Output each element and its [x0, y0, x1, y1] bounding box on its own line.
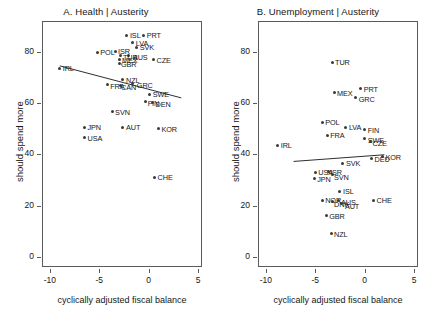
panel-a-x-tickmark — [99, 269, 100, 273]
panel-b-y-axis-label: should spend more — [230, 101, 241, 182]
data-point-label: AUT — [126, 123, 140, 132]
data-point — [96, 51, 99, 54]
panel-health-austerity: A. Health | Austerity should spend more … — [0, 0, 212, 318]
panel-a-y-tickmark — [37, 103, 41, 104]
panel-a-x-tick-label: -10 — [36, 275, 64, 285]
panel-b-y-tick-label: 20 — [222, 200, 250, 210]
panel-a-y-tickmark — [37, 206, 41, 207]
data-point — [372, 199, 375, 202]
data-point-label: CZE — [373, 139, 387, 148]
panel-a-y-tickmark — [37, 154, 41, 155]
panel-b-y-tick-label: 40 — [222, 148, 250, 158]
panel-a-x-tickmark — [149, 269, 150, 273]
panel-a-x-axis-label: cyclically adjusted fiscal balance — [42, 295, 202, 305]
data-point-label: NZL — [334, 230, 348, 239]
figure-two-panel-scatter: A. Health | Austerity should spend more … — [0, 0, 425, 318]
panel-a-x-tick-label: 0 — [135, 275, 163, 285]
data-point — [83, 126, 86, 129]
data-point-label: CHE — [377, 196, 392, 205]
data-point-label: SVN — [334, 173, 349, 182]
data-point — [313, 177, 316, 180]
data-point — [114, 50, 117, 53]
panel-a-y-tickmark — [37, 257, 41, 258]
data-point-label: JPN — [87, 123, 101, 132]
data-point-label: MEX — [337, 89, 353, 98]
data-point-label: SVN — [115, 108, 130, 117]
panel-a-y-tickmark — [37, 52, 41, 53]
panel-b-y-tick-label: 80 — [222, 46, 250, 56]
data-point-label: GBR — [329, 212, 345, 221]
data-point-label: POL — [100, 48, 114, 57]
panel-b-y-tickmark — [253, 206, 257, 207]
data-point-label: CHE — [158, 173, 173, 182]
panel-a-x-tick-label: -5 — [85, 275, 113, 285]
panel-a-y-tick-label: 20 — [6, 200, 34, 210]
data-point — [153, 176, 156, 179]
panel-unemployment-austerity: B. Unemployment | Austerity should spend… — [212, 0, 424, 318]
data-point — [333, 91, 336, 94]
panel-b-x-tick-label: 0 — [351, 275, 379, 285]
panel-a-x-tick-label: 5 — [184, 275, 212, 285]
data-point-label: ISL — [343, 187, 354, 196]
data-point-label: KOR — [162, 125, 178, 134]
panel-b-y-tickmark — [253, 52, 257, 53]
panel-b-title: B. Unemployment | Austerity — [212, 6, 424, 17]
data-point-label: SWE — [153, 90, 169, 99]
panel-a-y-tick-label: 80 — [6, 46, 34, 56]
data-point-label: GBR — [121, 60, 137, 69]
panel-a-y-tick-label: 40 — [6, 148, 34, 158]
data-point-label: AUT — [345, 202, 359, 211]
panel-a-y-tick-label: 0 — [6, 251, 34, 261]
data-point-label: USA — [87, 134, 102, 143]
data-point — [142, 34, 145, 37]
data-point — [370, 157, 373, 160]
panel-a-title: A. Health | Austerity — [0, 6, 212, 17]
panel-b-y-tickmark — [253, 103, 257, 104]
data-point-label: FIN — [368, 126, 379, 135]
panel-b-x-tickmark — [266, 269, 267, 273]
panel-b-x-tick-label: 5 — [400, 275, 425, 285]
panel-b-y-tickmark — [253, 154, 257, 155]
data-point — [325, 214, 328, 217]
panel-a-y-axis-label: should spend more — [14, 101, 25, 182]
data-point — [321, 199, 324, 202]
data-point — [326, 134, 329, 137]
panel-b-y-tickmark — [253, 257, 257, 258]
panel-b-x-tick-label: -10 — [252, 275, 280, 285]
panel-b-x-tickmark — [315, 269, 316, 273]
data-point — [321, 121, 324, 124]
data-point — [106, 83, 109, 86]
panel-b-x-tickmark — [414, 269, 415, 273]
data-point-label: POL — [325, 118, 339, 127]
data-point-label: PRT — [147, 31, 161, 40]
data-point — [148, 93, 151, 96]
data-point-label: IRL — [281, 141, 292, 150]
panel-b-y-tick-label: 0 — [222, 251, 250, 261]
data-point-label: KOR — [385, 153, 401, 162]
data-point-label: TUR — [335, 58, 350, 67]
data-point-label: FRA — [330, 131, 344, 140]
panel-a-x-tickmark — [198, 269, 199, 273]
data-point-label: LVA — [349, 123, 361, 132]
data-point-label: IRL — [63, 64, 74, 73]
panel-b-x-tick-label: -5 — [301, 275, 329, 285]
data-point-label: JPN — [317, 175, 331, 184]
data-point-label: PRT — [364, 85, 378, 94]
panel-b-y-tick-label: 60 — [222, 97, 250, 107]
panel-b-x-tickmark — [365, 269, 366, 273]
data-point-label: DEN — [156, 100, 171, 109]
data-point — [314, 171, 317, 174]
panel-a-y-tick-label: 60 — [6, 97, 34, 107]
panel-a-x-tickmark — [50, 269, 51, 273]
data-point — [330, 232, 333, 235]
data-point-label: CAN — [121, 83, 136, 92]
data-point-label: SVK — [140, 43, 154, 52]
data-point-label: GRC — [359, 95, 375, 104]
data-point — [331, 61, 334, 64]
data-point-label: GRC — [137, 81, 153, 90]
panel-b-x-axis-label: cyclically adjusted fiscal balance — [258, 295, 418, 305]
data-point-label: SVK — [346, 159, 360, 168]
data-point-label: CZE — [157, 56, 171, 65]
